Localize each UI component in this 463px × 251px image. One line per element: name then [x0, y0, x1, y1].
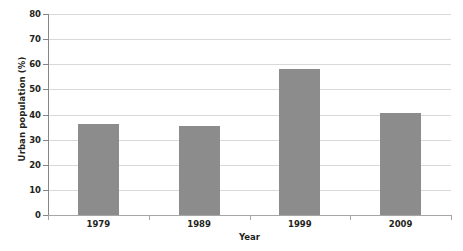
bar-2009	[380, 113, 421, 215]
bar-1999	[279, 69, 320, 215]
y-tick-label-20: 20	[3, 160, 41, 170]
bar-chart: Urban population (%) 01020304050607080 1…	[0, 0, 463, 251]
x-tick-label-1989: 1989	[149, 219, 249, 229]
x-axis-title: Year	[48, 232, 451, 242]
bar-1979	[78, 124, 119, 215]
y-tick-label-40: 40	[3, 110, 41, 120]
x-tick-4	[451, 215, 452, 220]
y-tick-label-30: 30	[3, 135, 41, 145]
bars-group	[48, 14, 451, 215]
x-tick-label-1999: 1999	[250, 219, 350, 229]
y-tick-label-10: 10	[3, 185, 41, 195]
y-tick-label-0: 0	[3, 210, 41, 220]
x-tick-label-2009: 2009	[351, 219, 451, 229]
y-tick-label-50: 50	[3, 84, 41, 94]
y-tick-label-60: 60	[3, 59, 41, 69]
y-tick-label-80: 80	[3, 9, 41, 19]
x-tick-label-1979: 1979	[48, 219, 148, 229]
bar-1989	[179, 126, 220, 215]
y-tick-label-70: 70	[3, 34, 41, 44]
